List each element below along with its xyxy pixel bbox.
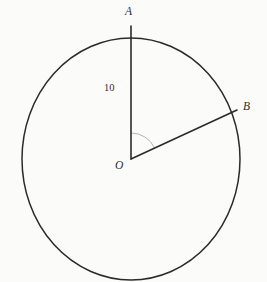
radius-segment-ob [131, 110, 237, 159]
point-label-b: B [243, 101, 250, 113]
geometry-figure: A B O 10 [0, 0, 267, 282]
point-label-o: O [115, 160, 123, 172]
point-label-a: A [125, 6, 132, 18]
radius-measure-label: 10 [104, 83, 115, 94]
angle-arc-aob [131, 133, 155, 148]
circle-diagram-canvas [0, 0, 267, 282]
